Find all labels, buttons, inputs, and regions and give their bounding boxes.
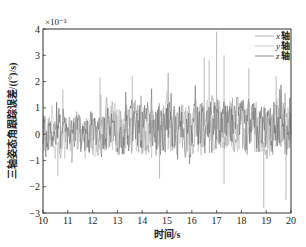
legend-letter-y: y bbox=[275, 41, 280, 51]
x-tick-label: 19 bbox=[261, 215, 271, 226]
y-axis-title: 三轴姿态角跟踪误差/((°)/s) bbox=[6, 63, 19, 180]
legend-label-y: 轴 bbox=[281, 40, 290, 51]
y-exponent-label: ×10⁻³ bbox=[45, 17, 67, 27]
y-tick-label: −3 bbox=[29, 208, 40, 219]
x-tick-label: 17 bbox=[212, 215, 222, 226]
chart: 1011121314151617181920 −3−2−101234 ×10⁻³… bbox=[0, 0, 306, 247]
legend: x轴y轴z轴 bbox=[255, 30, 290, 61]
series-layer bbox=[43, 73, 291, 164]
x-tick-label: 13 bbox=[112, 215, 122, 226]
y-tick-label: −1 bbox=[29, 155, 40, 166]
x-tick-label: 15 bbox=[162, 215, 172, 226]
x-tick-label: 16 bbox=[187, 215, 197, 226]
y-tick-label: 3 bbox=[35, 50, 40, 61]
x-tick-label: 11 bbox=[63, 215, 73, 226]
x-tick-label: 14 bbox=[137, 215, 147, 226]
x-tick-label: 12 bbox=[88, 215, 98, 226]
legend-label-x: 轴 bbox=[281, 30, 290, 41]
y-tick-label: 4 bbox=[35, 24, 40, 35]
legend-letter-x: x bbox=[275, 31, 280, 41]
y-tick-label: −2 bbox=[29, 181, 40, 192]
y-tick-label: 2 bbox=[35, 76, 40, 87]
x-axis-ticks: 1011121314151617181920 bbox=[38, 210, 296, 226]
x-tick-label: 20 bbox=[286, 215, 296, 226]
x-axis-title: 时间/s bbox=[154, 228, 181, 240]
legend-letter-z: z bbox=[275, 51, 280, 61]
y-tick-label: 0 bbox=[35, 129, 40, 140]
legend-label-z: 轴 bbox=[281, 50, 290, 61]
x-tick-label: 18 bbox=[236, 215, 246, 226]
y-tick-label: 1 bbox=[35, 102, 40, 113]
